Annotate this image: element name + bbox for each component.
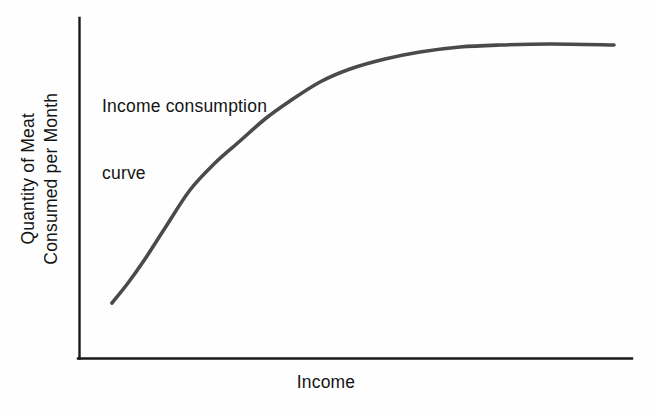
x-axis-label: Income: [0, 371, 652, 393]
chart-figure: Quantity of Meat Consumed per Month Inco…: [0, 0, 652, 415]
curve-annotation-line1: Income consumption: [102, 95, 332, 117]
curve-annotation-line2: curve: [102, 162, 332, 184]
curve-annotation: Income consumption curve: [102, 50, 332, 229]
